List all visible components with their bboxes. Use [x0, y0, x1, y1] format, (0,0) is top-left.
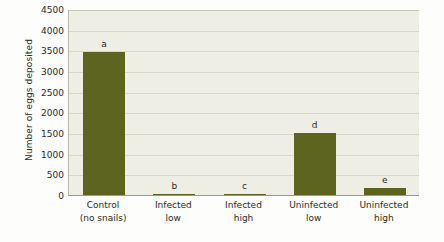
bar	[294, 133, 336, 195]
bar	[224, 194, 266, 196]
bar-chart-figure: Number of eggs deposited 450040003500300…	[0, 0, 444, 242]
x-axis-tick: Control(no snails)	[68, 199, 138, 224]
x-axis-tick-line: Infected	[138, 199, 208, 212]
x-axis-tick-line: Uninfected	[349, 199, 419, 212]
y-axis-tick: 500	[26, 170, 64, 180]
x-axis-tick: Uninfectedlow	[279, 199, 349, 224]
y-axis-tick: 2500	[26, 88, 64, 98]
y-axis-tick: 4500	[26, 5, 64, 15]
x-axis-tick-line: low	[138, 212, 208, 225]
bar-group: c	[224, 10, 266, 195]
plot-area: abcde	[68, 10, 419, 196]
bar-group: a	[83, 10, 125, 195]
y-axis-tick-labels: 450040003500300025002000150010005000	[26, 10, 64, 196]
x-axis-tick-line: low	[279, 212, 349, 225]
bar-series: abcde	[69, 10, 419, 195]
bar-annotation-letter: c	[224, 181, 266, 191]
x-axis-tick-line: Uninfected	[279, 199, 349, 212]
x-axis-tick-line: Control	[68, 199, 138, 212]
bar	[83, 52, 125, 195]
bar-group: d	[294, 10, 336, 195]
x-axis-tick: Infectedhigh	[208, 199, 278, 224]
x-axis-tick: Infectedlow	[138, 199, 208, 224]
bar-group: b	[153, 10, 195, 195]
bar-annotation-letter: d	[294, 120, 336, 130]
x-axis-tick-line: high	[208, 212, 278, 225]
y-axis-tick: 2000	[26, 108, 64, 118]
x-axis-tick-line: high	[349, 212, 419, 225]
y-axis-tick: 4000	[26, 26, 64, 36]
y-axis-tick: 3000	[26, 67, 64, 77]
x-axis-tick: Uninfectedhigh	[349, 199, 419, 224]
bar-annotation-letter: a	[83, 39, 125, 49]
y-axis-tick: 1000	[26, 150, 64, 160]
x-axis-tick-labels: Control(no snails)InfectedlowInfectedhig…	[68, 199, 419, 239]
bar	[153, 194, 195, 196]
bar	[364, 188, 406, 195]
y-axis-tick: 0	[26, 191, 64, 201]
bar-annotation-letter: b	[153, 181, 195, 191]
bar-group: e	[364, 10, 406, 195]
y-axis-tick: 1500	[26, 129, 64, 139]
x-axis-tick-line: Infected	[208, 199, 278, 212]
y-axis-tick: 3500	[26, 46, 64, 56]
x-axis-tick-line: (no snails)	[68, 212, 138, 225]
bar-annotation-letter: e	[364, 175, 406, 185]
